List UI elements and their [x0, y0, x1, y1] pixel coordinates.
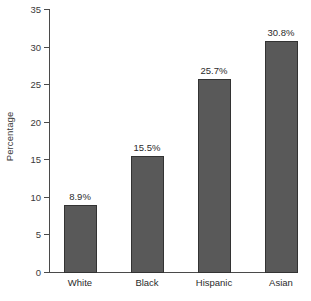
bar-value-label: 15.5% [134, 142, 161, 153]
bar-white[interactable] [64, 205, 97, 273]
bar-hispanic[interactable] [198, 79, 231, 273]
bar-asian[interactable] [265, 41, 298, 273]
bar-value-label: 30.8% [268, 27, 295, 38]
bar-chart: Percentage 05101520253035 8.9%White15.5%… [0, 0, 311, 301]
x-axis-category-label: Asian [269, 277, 293, 288]
x-axis-category-label: Hispanic [196, 277, 232, 288]
x-axis-category-label: Black [135, 277, 158, 288]
bar-value-label: 25.7% [201, 65, 228, 76]
x-axis-category-label: White [68, 277, 92, 288]
bar-value-label: 8.9% [69, 191, 91, 202]
bar-black[interactable] [131, 156, 164, 273]
plot-area: 8.9%White15.5%Black25.7%Hispanic30.8%Asi… [0, 0, 311, 301]
